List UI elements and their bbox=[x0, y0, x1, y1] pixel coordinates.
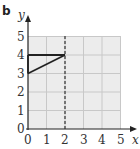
y-axis-arrow-icon bbox=[25, 15, 31, 22]
x-tick-labels: 0 1 2 3 4 5 bbox=[24, 133, 125, 147]
y-axis-label: y bbox=[17, 8, 25, 22]
svg-text:4: 4 bbox=[17, 48, 25, 62]
chart: b y x 0 1 2 3 4 5 0 1 2 3 4 5 bbox=[0, 0, 140, 149]
svg-text:2: 2 bbox=[61, 133, 69, 147]
x-axis-arrow-icon bbox=[130, 126, 137, 132]
svg-text:1: 1 bbox=[17, 104, 25, 118]
svg-text:0: 0 bbox=[24, 133, 32, 147]
panel-label: b bbox=[2, 4, 11, 18]
y-tick-labels: 0 1 2 3 4 5 bbox=[17, 30, 25, 137]
svg-text:3: 3 bbox=[17, 67, 25, 81]
x-axis-label: x bbox=[132, 133, 139, 147]
svg-text:3: 3 bbox=[80, 133, 88, 147]
svg-text:4: 4 bbox=[98, 133, 106, 147]
plot-area bbox=[28, 36, 121, 129]
svg-text:5: 5 bbox=[117, 133, 125, 147]
svg-text:1: 1 bbox=[43, 133, 51, 147]
svg-text:5: 5 bbox=[17, 30, 25, 44]
svg-text:2: 2 bbox=[17, 85, 25, 99]
